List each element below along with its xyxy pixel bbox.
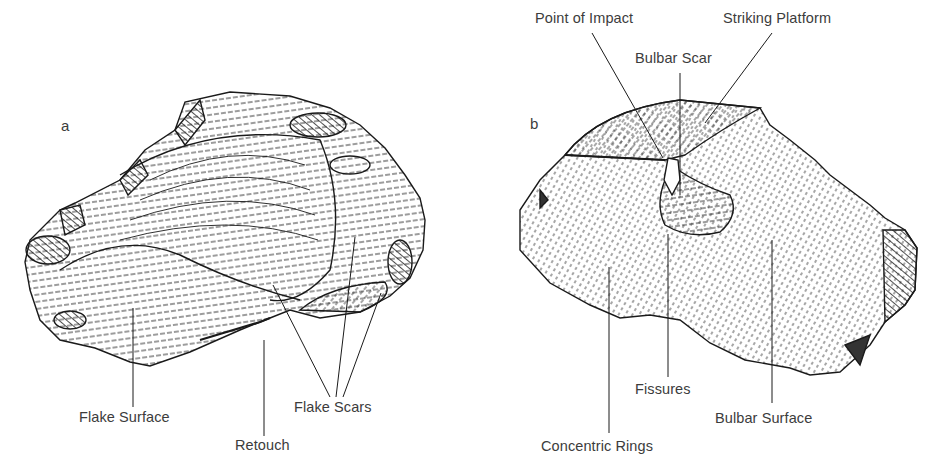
- panel-letter-b: b: [530, 115, 538, 132]
- label-concentric-rings: Concentric Rings: [541, 438, 653, 454]
- flake-a-drawing: [25, 92, 425, 366]
- label-flake-scars: Flake Scars: [294, 399, 372, 415]
- label-retouch: Retouch: [235, 437, 290, 453]
- panel-letter-a: a: [61, 117, 69, 134]
- label-bulbar-scar: Bulbar Scar: [635, 50, 712, 66]
- flake-diagram: [0, 0, 933, 476]
- label-bulbar-surface: Bulbar Surface: [715, 410, 812, 426]
- label-flake-surface: Flake Surface: [79, 409, 170, 425]
- label-fissures: Fissures: [635, 381, 691, 397]
- label-point-of-impact: Point of Impact: [535, 10, 633, 26]
- label-striking-platform: Striking Platform: [723, 10, 831, 26]
- flake-b-drawing: [520, 100, 917, 375]
